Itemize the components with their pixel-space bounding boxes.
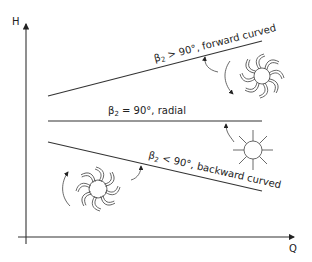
forward-angle-arrow-icon <box>205 57 218 72</box>
backward-curved-line <box>48 142 262 191</box>
radial-label: β2 = 90°, radial <box>108 105 186 118</box>
forward-rotation-arrow-icon <box>225 61 233 94</box>
axes: H Q <box>12 16 297 254</box>
radial-impeller-icon <box>233 130 273 170</box>
x-axis-label: Q <box>289 243 297 254</box>
forward-label: β2 > 90°, forward curved <box>153 22 278 66</box>
svg-text:β2 > 90°, forward curved: β2 > 90°, forward curved <box>153 22 278 66</box>
forward-curved-line <box>48 41 262 96</box>
forward-curved-impeller-icon <box>240 54 284 98</box>
backward-label: β2 < 90°, backward curved <box>147 149 282 192</box>
backward-rotation-arrow-icon <box>63 172 70 206</box>
radial-angle-arrow-icon <box>226 124 234 142</box>
svg-text:β2 < 90°, backward curved: β2 < 90°, backward curved <box>147 149 282 192</box>
svg-text:β2 = 90°, radial: β2 = 90°, radial <box>108 105 186 118</box>
backward-curved-impeller-icon <box>76 167 120 211</box>
y-axis-label: H <box>12 16 20 27</box>
backward-angle-arrow-icon <box>131 166 141 180</box>
head-flow-diagram: H Q β2 > 90°, forward curved β2 = 90°, r… <box>0 0 312 262</box>
